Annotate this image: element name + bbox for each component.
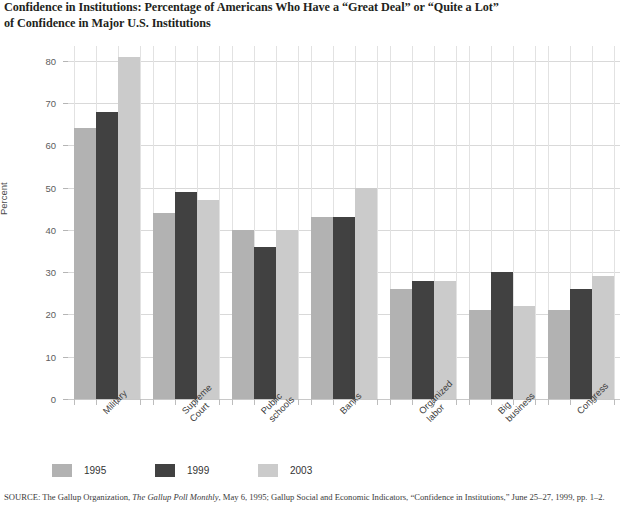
- x-axis-tick-mark: [254, 399, 255, 405]
- bar: [491, 272, 513, 399]
- bar-chart: Percent 01020304050607080 MilitarySuprem…: [0, 40, 641, 455]
- bar: [197, 200, 219, 399]
- legend-item[interactable]: 1999: [155, 461, 209, 479]
- gridline-vertical: [456, 46, 457, 399]
- x-axis-tick-mark: [570, 399, 571, 405]
- y-axis-tick-label: 80: [16, 55, 56, 66]
- x-axis-tick-mark: [469, 399, 470, 405]
- y-axis-tick-label: 20: [16, 309, 56, 320]
- gridline-vertical: [614, 46, 615, 399]
- bar-group: [153, 46, 219, 399]
- legend-color-swatch: [258, 464, 278, 477]
- bar: [311, 217, 333, 399]
- source-suffix: , May 6, 1995; Gallup Social and Economi…: [219, 492, 605, 502]
- x-axis-tick-mark: [175, 399, 176, 405]
- source-prefix: SOURCE: The Gallup Organization,: [4, 492, 132, 502]
- x-axis-tick-mark: [412, 399, 413, 405]
- y-axis-tick-label: 70: [16, 98, 56, 109]
- gridline-vertical: [140, 46, 141, 399]
- bar-group: [311, 46, 377, 399]
- y-axis-tick-label: 60: [16, 140, 56, 151]
- x-axis-tick-mark: [74, 399, 75, 405]
- y-axis-tick-label: 10: [16, 351, 56, 362]
- bar: [548, 310, 570, 399]
- bar: [175, 192, 197, 399]
- chart-title-line-1: Confidence in Institutions: Percentage o…: [4, 0, 629, 16]
- bar: [469, 310, 491, 399]
- y-axis-tick-label: 40: [16, 224, 56, 235]
- x-axis-baseline: [68, 399, 620, 400]
- y-axis-tick-mark: [63, 230, 68, 231]
- bar: [333, 217, 355, 399]
- bar: [390, 289, 412, 399]
- bar: [412, 281, 434, 399]
- bar: [74, 128, 96, 399]
- y-axis-tick-mark: [63, 188, 68, 189]
- x-axis-tick-mark: [614, 399, 615, 405]
- bar: [570, 289, 592, 399]
- legend-color-swatch: [155, 464, 175, 477]
- bar: [355, 188, 377, 399]
- x-axis-tick-mark: [140, 399, 141, 405]
- y-axis-tick-mark: [63, 314, 68, 315]
- chart-title: Confidence in Institutions: Percentage o…: [4, 0, 629, 31]
- x-axis-tick-mark: [153, 399, 154, 405]
- bar-group: [74, 46, 140, 399]
- legend-label: 2003: [290, 465, 312, 476]
- x-axis-tick-mark: [232, 399, 233, 405]
- legend-color-swatch: [52, 464, 72, 477]
- y-axis-tick-mark: [63, 103, 68, 104]
- bar: [118, 57, 140, 399]
- x-axis-tick-mark: [390, 399, 391, 405]
- x-axis-tick-mark: [96, 399, 97, 405]
- y-axis-tick-label: 50: [16, 182, 56, 193]
- x-axis-tick-mark: [333, 399, 334, 405]
- legend-item[interactable]: 1995: [52, 461, 106, 479]
- bar: [232, 230, 254, 399]
- bar: [96, 112, 118, 399]
- bar: [254, 247, 276, 399]
- source-note: SOURCE: The Gallup Organization, The Gal…: [4, 492, 638, 503]
- y-axis-tick-mark: [63, 145, 68, 146]
- bar-group: [548, 46, 614, 399]
- y-axis-tick-mark: [63, 357, 68, 358]
- y-axis-label: Percent: [0, 182, 9, 215]
- y-axis-tick-label: 0: [16, 394, 56, 405]
- bar-group: [469, 46, 535, 399]
- legend-label: 1995: [84, 465, 106, 476]
- bar: [153, 213, 175, 399]
- bar-group: [390, 46, 456, 399]
- y-axis-tick-mark: [63, 61, 68, 62]
- gridline-vertical: [377, 46, 378, 399]
- y-axis-tick-mark: [63, 399, 68, 400]
- bar-group: [232, 46, 298, 399]
- y-axis-tick-label: 30: [16, 267, 56, 278]
- x-axis-tick-mark: [548, 399, 549, 405]
- gridline-vertical: [298, 46, 299, 399]
- chart-title-line-2: of Confidence in Major U.S. Institutions: [4, 16, 629, 32]
- legend-item[interactable]: 2003: [258, 461, 312, 479]
- y-axis-tick-mark: [63, 272, 68, 273]
- x-axis-tick-mark: [377, 399, 378, 405]
- x-axis-tick-mark: [298, 399, 299, 405]
- bar: [276, 230, 298, 399]
- x-axis-tick-mark: [311, 399, 312, 405]
- plot-area: [68, 46, 620, 399]
- x-axis-tick-mark: [491, 399, 492, 405]
- gridline-vertical: [219, 46, 220, 399]
- legend-label: 1999: [187, 465, 209, 476]
- gridline-vertical: [535, 46, 536, 399]
- source-publication: The Gallup Poll Monthly: [132, 492, 218, 502]
